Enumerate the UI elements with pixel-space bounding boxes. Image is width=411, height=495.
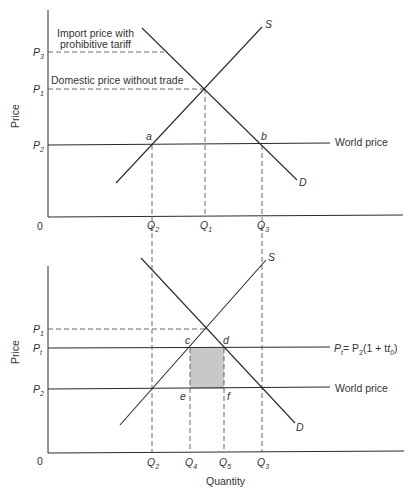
bottom-chart: Price 0 Quantity P1 Pt P2 Pt= P2(1 + tPt… — [9, 251, 404, 487]
bottom-p2-label: P2 — [33, 383, 44, 397]
bottom-world-price-label: World price — [335, 382, 388, 394]
tariff-diagram: Price 0 Import price with prohibitive ta… — [0, 0, 411, 495]
bottom-origin-label: 0 — [37, 455, 43, 467]
top-q1-label: Q1 — [200, 219, 212, 233]
top-origin-label: 0 — [37, 220, 43, 232]
bottom-supply-curve — [120, 260, 266, 425]
point-e-label: e — [180, 390, 186, 402]
bottom-q2-label: Q2 — [147, 456, 159, 470]
domestic-price-annotation: Domestic price without trade — [51, 74, 184, 86]
top-p3-label: P3 — [33, 46, 44, 60]
top-world-price-label: World price — [335, 136, 388, 148]
top-supply-curve — [116, 27, 262, 183]
top-q3-label: Q3 — [257, 219, 269, 233]
bottom-q5-label: Q5 — [219, 456, 231, 470]
point-b-label: b — [261, 130, 267, 142]
bottom-price-axis-label: Price — [9, 340, 21, 364]
bottom-demand-label: D — [296, 421, 304, 433]
point-f-label: f — [227, 390, 231, 402]
top-q2-label: Q2 — [147, 219, 159, 233]
top-demand-label: D — [299, 176, 307, 188]
bottom-pt-label: Pt — [33, 342, 43, 356]
pt-equation-label: Pt= P2(1 + tPt0) — [334, 342, 398, 356]
point-a-label: a — [146, 130, 152, 142]
top-price-axis-label: Price — [9, 104, 21, 128]
bottom-supply-label: S — [268, 251, 275, 263]
top-p2-label: P2 — [33, 139, 44, 153]
bottom-demand-curve — [141, 258, 295, 423]
bottom-q3-label: Q3 — [257, 456, 269, 470]
point-d-label: d — [223, 334, 230, 346]
bottom-x-axis — [48, 451, 404, 453]
bottom-p1-label: P1 — [33, 323, 44, 337]
top-supply-label: S — [265, 18, 272, 30]
bottom-world-price-line — [48, 387, 330, 389]
import-price-annotation-2: prohibitive tariff — [60, 38, 131, 50]
tariff-revenue-area — [190, 348, 224, 389]
bottom-q4-label: Q4 — [185, 456, 197, 470]
quantity-axis-label: Quantity — [206, 475, 246, 487]
point-c-label: c — [185, 334, 191, 346]
top-demand-curve — [142, 28, 297, 180]
top-world-price-line — [48, 143, 330, 145]
top-p1-label: P1 — [33, 83, 44, 97]
top-x-axis — [48, 215, 403, 217]
